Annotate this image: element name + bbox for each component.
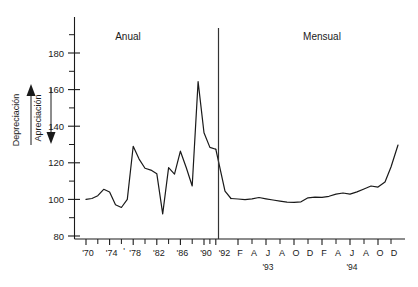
chart-canvas: 180 160 140 120 100 80 Deprec [0, 0, 418, 287]
x-tick-label-86: '86 [177, 248, 189, 258]
x-tick-label-m0: F [237, 248, 243, 258]
arrow-down-icon [47, 132, 56, 144]
x-tick-label-m8: J [350, 248, 355, 258]
x-tick-label-m11: D [391, 248, 398, 258]
depreciacion-label: Depreciación [11, 94, 21, 147]
x-tick-label-m9: A [363, 248, 369, 258]
x-tick-label-m6: F [321, 248, 327, 258]
apreciacion-label: Apreciación [33, 94, 43, 141]
y-axis-ticks: 180 160 140 120 100 80 [48, 48, 80, 242]
x-tick-label-74: '74 [106, 248, 118, 258]
x-tick-label-82: '82 [153, 248, 165, 258]
year-group-label-93: '93 [262, 262, 273, 272]
x-tick-label-m2: J [266, 248, 271, 258]
x-axis-labels-monthly: F A J A O D F A J A O D [237, 248, 398, 258]
x-tick-label-70: '70 [82, 248, 94, 258]
chart-figure: 180 160 140 120 100 80 Deprec [0, 0, 418, 287]
arrow-up-icon [27, 84, 36, 96]
year-group-label-94: '94 [346, 262, 357, 272]
panel-title-mensual: Mensual [303, 31, 341, 42]
x-tick-label-m7: A [335, 248, 341, 258]
y-tick-label-120: 120 [48, 157, 64, 168]
x-tick-apostrophe-1: ' [123, 246, 125, 256]
x-tick-label-m10: O [376, 248, 383, 258]
x-axis-ticks-annual [86, 239, 216, 245]
y-tick-label-100: 100 [48, 194, 64, 205]
x-tick-label-78: '78 [129, 248, 141, 258]
y-tick-label-180: 180 [48, 48, 64, 59]
x-tick-label-m1: A [251, 248, 257, 258]
x-tick-label-m4: O [292, 248, 299, 258]
x-tick-label-92: '92 [219, 248, 231, 258]
monthly-series-line [231, 145, 398, 202]
x-axis-ticks-monthly [238, 239, 391, 245]
x-tick-label-90: '90 [200, 248, 212, 258]
x-axis-labels-annual: '70 '74 '78 '82 '86 '90 '92 ' [82, 246, 230, 258]
y-tick-label-80: 80 [53, 231, 64, 242]
x-tick-label-m5: D [307, 248, 314, 258]
annual-series-line [86, 82, 216, 214]
x-tick-label-m3: A [279, 248, 285, 258]
panel-title-anual: Anual [115, 31, 141, 42]
